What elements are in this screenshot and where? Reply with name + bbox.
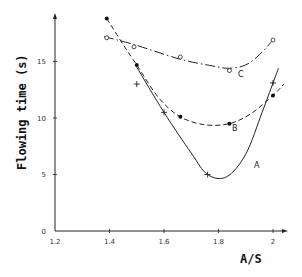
data-point-open: [178, 55, 182, 59]
data-point-open: [105, 36, 109, 40]
x-tick-label: 2: [271, 238, 275, 246]
x-tick-label: 1.2: [49, 238, 60, 246]
x-tick-label: 1.4: [104, 238, 116, 246]
data-point-plus: [161, 109, 167, 115]
series-b-line: [107, 19, 284, 126]
curves: [104, 19, 284, 179]
x-axis-arrow: [282, 229, 288, 233]
y-tick-label: 15: [37, 58, 46, 66]
data-point-filled: [178, 115, 182, 119]
data-point-open: [227, 69, 231, 73]
data-point-filled: [227, 122, 231, 126]
markers: [105, 17, 276, 178]
data-point-open: [271, 38, 275, 42]
y-axis-title: Flowing time (s): [15, 54, 29, 170]
data-point-open: [132, 45, 136, 49]
curve-label-a: A: [254, 161, 260, 170]
y-tick-label: 10: [37, 115, 46, 123]
x-tick-label: 1.6: [158, 238, 170, 246]
data-point-plus: [134, 81, 140, 87]
data-point-filled: [135, 63, 139, 67]
curve-label-b: B: [232, 124, 238, 133]
x-axis-title: A/S: [240, 252, 262, 266]
y-tick-label: 5: [42, 171, 46, 179]
y-axis-arrow: [53, 13, 57, 19]
data-point-plus: [270, 80, 276, 86]
y-tick-label: 0: [42, 228, 46, 236]
data-point-filled: [271, 93, 275, 97]
x-tick-label: 1.8: [213, 238, 224, 246]
series-c-line: [104, 37, 273, 69]
ticks: 1.21.41.61.82051015: [37, 58, 275, 246]
chart: 1.21.41.61.82051015 A B C A/S Flowing ti…: [0, 0, 302, 277]
curve-label-c: C: [238, 70, 244, 79]
data-point-filled: [105, 17, 109, 21]
